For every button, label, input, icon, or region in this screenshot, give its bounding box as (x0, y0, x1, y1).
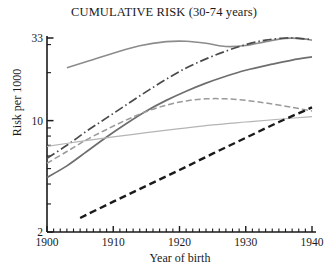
series-6-black-bold-dashed (80, 107, 312, 218)
x-tick-label: 1920 (168, 236, 191, 248)
x-tick-label: 1910 (102, 236, 125, 248)
x-tick-label: 1930 (234, 236, 257, 248)
y-tick-label: 33 (32, 32, 44, 44)
series-5-light-grey-thin (47, 117, 312, 147)
x-tick-label: 1940 (301, 236, 324, 248)
axes (47, 36, 316, 232)
axis-ticks (47, 38, 312, 232)
series-3-medium-grey-solid (47, 57, 312, 178)
cumulative-risk-chart: CUMULATIVE RISK (30-74 years) Risk per 1… (0, 0, 328, 271)
plot-area: 1900191019201930194021033 (0, 0, 328, 271)
data-series (47, 38, 312, 218)
series-4-grey-dashed (47, 99, 312, 164)
y-tick-label: 10 (32, 115, 44, 127)
y-tick-label: 2 (37, 226, 43, 238)
